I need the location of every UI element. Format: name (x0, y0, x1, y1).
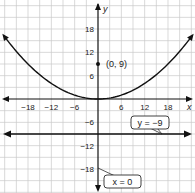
x-tick-label: 12 (140, 103, 149, 112)
directrix-callout-text: y = −9 (137, 118, 162, 128)
x-tick-label: 18 (164, 103, 173, 112)
arrow-up-icon (95, 3, 101, 10)
x-axis-label: x (186, 102, 192, 112)
parabola-curve (4, 36, 191, 99)
x-tick-label: 6 (119, 103, 124, 112)
x-tick-label: −18 (21, 103, 35, 112)
arrow-left-icon (2, 96, 9, 102)
focus-point-label: (0, 9) (106, 59, 127, 69)
y-tick-label: −12 (80, 142, 94, 151)
y-axis (95, 3, 101, 192)
y-tick-label: 6 (90, 72, 95, 81)
y-tick-label: −18 (80, 165, 94, 174)
axis-callout: x = 0 (98, 168, 141, 188)
y-tick-label: 18 (85, 25, 94, 34)
y-tick-label: 12 (85, 48, 94, 57)
axis-callout-text: x = 0 (113, 177, 133, 187)
y-tick-label: −6 (85, 118, 95, 127)
arrow-down-icon (95, 185, 101, 192)
parabola-graph: −18−12−661218 18126−6−12−18 x y (0, 9) y… (0, 0, 195, 193)
arrow-right-icon (184, 131, 192, 138)
focus-point (96, 62, 100, 66)
y-axis-label: y (102, 4, 108, 14)
x-tick-label: −12 (45, 103, 59, 112)
arrow-left-icon (3, 131, 11, 138)
x-tick-label: −6 (70, 103, 80, 112)
directrix-callout: y = −9 (131, 116, 169, 134)
